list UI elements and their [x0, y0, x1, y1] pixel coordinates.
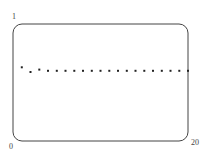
data-point: [126, 70, 128, 72]
data-point: [152, 70, 154, 72]
plot-frame: [13, 24, 188, 141]
data-point: [82, 70, 84, 72]
data-point: [30, 71, 32, 73]
data-points: [21, 66, 189, 73]
data-point: [56, 70, 58, 72]
data-point: [100, 70, 102, 72]
data-point: [161, 70, 163, 72]
chart-plot-area: [0, 0, 208, 155]
data-point: [117, 70, 119, 72]
data-point: [178, 70, 180, 72]
data-point: [21, 66, 23, 68]
data-point: [65, 70, 67, 72]
data-point: [143, 70, 145, 72]
x-axis-min-label: 0: [9, 143, 13, 151]
data-point: [170, 70, 172, 72]
data-point: [47, 70, 49, 72]
data-point: [108, 70, 110, 72]
data-point: [187, 70, 189, 72]
y-axis-max-label: 1: [12, 13, 16, 21]
data-point: [38, 69, 40, 71]
data-point: [91, 70, 93, 72]
data-point: [135, 70, 137, 72]
data-point: [73, 70, 75, 72]
x-axis-max-label: 20: [191, 139, 199, 147]
